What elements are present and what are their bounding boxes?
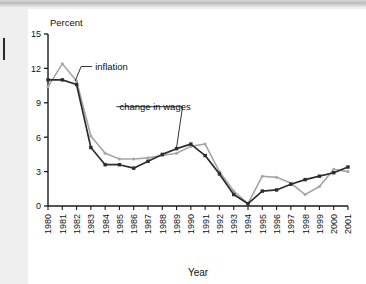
wages-annotation-label: change in wages	[119, 101, 191, 112]
x-axis-title: Year	[188, 267, 209, 278]
series-point-inflation	[175, 152, 178, 155]
line-chart: 03691215Percent1980198119821983198419851…	[0, 0, 366, 284]
inflation-annotation-leader-line	[75, 67, 92, 81]
x-axis-tick-label: 1996	[272, 214, 282, 234]
series-point-inflation	[304, 193, 307, 196]
series-point-change-in-wages	[118, 163, 121, 166]
y-axis-tick-label: 9	[36, 98, 41, 108]
series-point-change-in-wages	[203, 154, 206, 157]
series-point-inflation	[332, 168, 335, 171]
series-point-change-in-wages	[232, 193, 235, 196]
series-point-change-in-wages	[46, 78, 49, 81]
x-axis-tick-label: 1994	[243, 214, 253, 234]
y-axis-tick-label: 15	[31, 29, 41, 39]
series-point-change-in-wages	[346, 165, 349, 168]
y-axis-title: Percent	[50, 17, 83, 28]
series-point-inflation	[47, 85, 50, 88]
series-point-change-in-wages	[246, 202, 249, 205]
series-point-change-in-wages	[132, 166, 135, 169]
series-point-change-in-wages	[303, 178, 306, 181]
series-point-inflation	[147, 156, 150, 159]
x-axis-tick-label: 2001	[343, 214, 353, 234]
chart-svg: 03691215Percent1980198119821983198419851…	[0, 0, 366, 284]
series-point-change-in-wages	[218, 172, 221, 175]
series-point-inflation	[104, 152, 107, 155]
series-point-inflation	[89, 135, 92, 138]
x-axis-tick-label: 1989	[172, 214, 182, 234]
series-point-inflation	[347, 170, 350, 173]
x-axis-tick-label: 1981	[58, 214, 68, 234]
x-axis-tick-label: 1986	[129, 214, 139, 234]
x-axis-tick-label: 2000	[329, 214, 339, 234]
x-axis-tick-label: 1990	[186, 214, 196, 234]
x-axis-tick-label: 1988	[158, 214, 168, 234]
series-point-change-in-wages	[318, 174, 321, 177]
x-axis-tick-label: 1984	[101, 214, 111, 234]
series-point-change-in-wages	[261, 189, 264, 192]
x-axis-tick-label: 1992	[215, 214, 225, 234]
series-point-change-in-wages	[61, 78, 64, 81]
series-point-change-in-wages	[89, 146, 92, 149]
x-axis-tick-label: 1983	[86, 214, 96, 234]
series-point-change-in-wages	[103, 163, 106, 166]
x-axis-tick-label: 1982	[72, 214, 82, 234]
x-axis-tick-label: 1997	[286, 214, 296, 234]
series-point-change-in-wages	[332, 171, 335, 174]
series-point-inflation	[204, 143, 207, 146]
y-axis-tick-label: 6	[36, 133, 41, 143]
series-line-change-in-wages	[48, 80, 348, 204]
series-point-inflation	[318, 185, 321, 188]
inflation-annotation-label: inflation	[95, 61, 128, 72]
x-axis-tick-label: 1998	[301, 214, 311, 234]
series-point-change-in-wages	[189, 142, 192, 145]
series-point-inflation	[261, 175, 264, 178]
y-axis-tick-label: 0	[36, 201, 41, 211]
series-point-inflation	[61, 62, 64, 65]
x-axis-tick-label: 1993	[229, 214, 239, 234]
series-point-change-in-wages	[146, 160, 149, 163]
x-axis-tick-label: 1999	[315, 214, 325, 234]
series-point-change-in-wages	[75, 83, 78, 86]
x-axis-tick-label: 1987	[143, 214, 153, 234]
x-axis-tick-label: 1991	[201, 214, 211, 234]
series-line-inflation	[48, 64, 348, 204]
series-point-inflation	[275, 176, 278, 179]
x-axis-tick-label: 1985	[115, 214, 125, 234]
series-point-inflation	[118, 157, 121, 160]
x-axis-tick-label: 1980	[43, 214, 53, 234]
y-axis-tick-label: 12	[31, 64, 41, 74]
series-point-change-in-wages	[275, 188, 278, 191]
series-point-inflation	[132, 157, 135, 160]
wages-annotation-leader-line	[116, 107, 182, 148]
y-axis-tick-label: 3	[36, 167, 41, 177]
x-axis-tick-label: 1995	[258, 214, 268, 234]
series-point-change-in-wages	[161, 153, 164, 156]
series-point-change-in-wages	[289, 183, 292, 186]
